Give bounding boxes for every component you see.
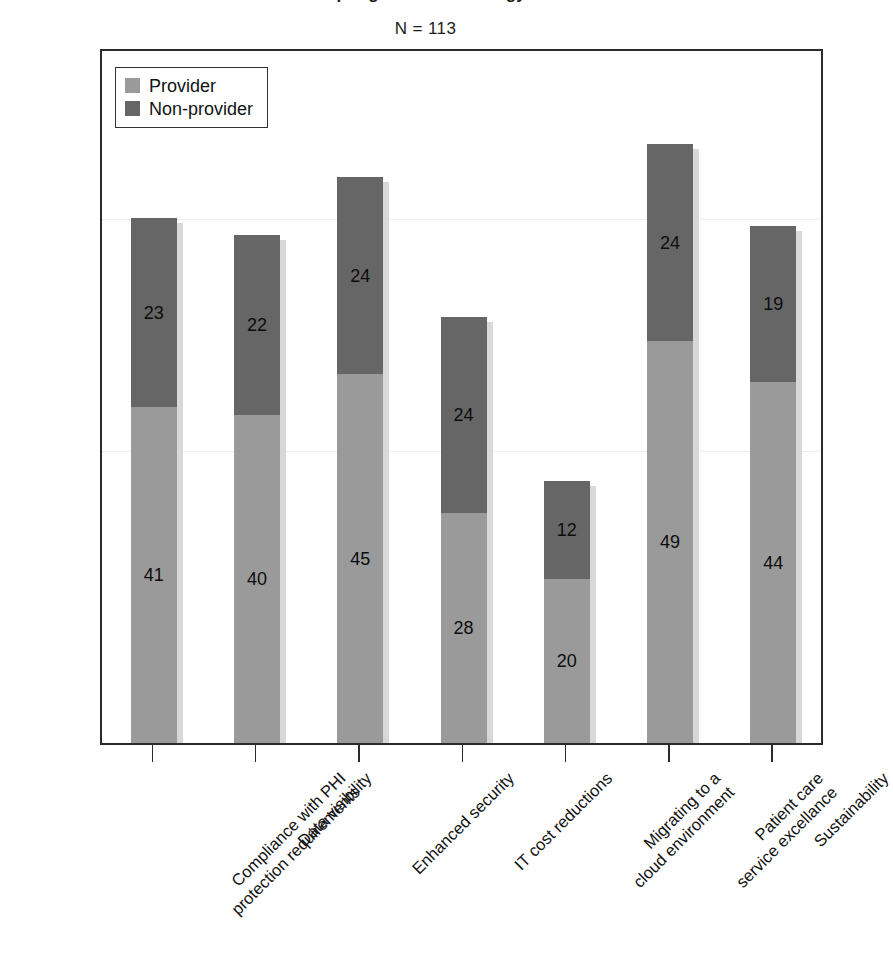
chart-subtitle: N = 113 — [0, 19, 851, 39]
x-axis-tick — [771, 745, 773, 762]
bar-group: 4524 — [337, 177, 383, 743]
bar-value-label-non-provider: 12 — [544, 521, 590, 539]
x-axis-label: Migrating to acloud environment — [614, 768, 738, 892]
x-axis-tick — [152, 745, 154, 762]
x-axis-tick — [668, 745, 670, 762]
bar-value-label-provider: 41 — [131, 566, 177, 584]
plot-area: Provider Non-provider 412340224524282420… — [100, 49, 823, 745]
bar-value-label-provider: 28 — [441, 619, 487, 637]
x-axis-tick — [462, 745, 464, 762]
bar-group: 4419 — [750, 226, 796, 743]
x-axis-tick — [255, 745, 257, 762]
bar-value-label-non-provider: 24 — [441, 406, 487, 424]
bar-group: 4022 — [234, 235, 280, 743]
x-axis-tick — [358, 745, 360, 762]
bar-value-label-provider: 44 — [750, 554, 796, 572]
x-axis-label: Enhanced security — [408, 768, 518, 878]
bar-value-label-provider: 49 — [647, 533, 693, 551]
bar-group: 4123 — [131, 218, 177, 743]
bar-value-label-provider: 20 — [544, 652, 590, 670]
bar-group: 2012 — [544, 481, 590, 743]
chart-title-strip: Drivers for adopting cloud technology in… — [0, 0, 851, 10]
bar-value-label-non-provider: 24 — [337, 267, 383, 285]
x-axis-label: IT cost reductions — [510, 768, 616, 874]
bar-value-label-provider: 45 — [337, 550, 383, 568]
bars-layer: 4123402245242824201249244419 — [102, 51, 821, 743]
bar-group: 4924 — [647, 144, 693, 743]
bar-group: 2824 — [441, 317, 487, 743]
bar-value-label-provider: 40 — [234, 570, 280, 588]
bar-value-label-non-provider: 24 — [647, 234, 693, 252]
bar-value-label-non-provider: 22 — [234, 316, 280, 334]
bar-value-label-non-provider: 23 — [131, 304, 177, 322]
x-axis-tick — [565, 745, 567, 762]
bar-value-label-non-provider: 19 — [750, 295, 796, 313]
chart-title: Drivers for adopting cloud technology in… — [0, 0, 851, 4]
